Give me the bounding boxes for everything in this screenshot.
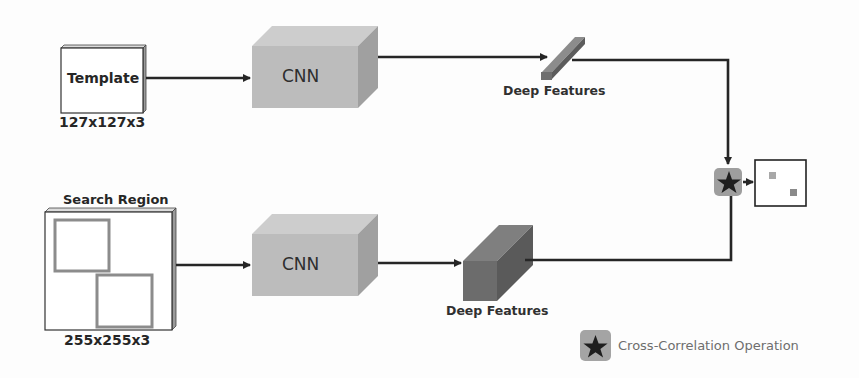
template-dims-label: 127x127x3	[59, 114, 145, 130]
search-dims-label: 255x255x3	[64, 332, 150, 348]
arrow-features-top-to-operator	[572, 60, 728, 164]
cnn-top-label: CNN	[282, 66, 319, 86]
template-input-label: Template	[67, 70, 139, 86]
response-peak-1	[769, 172, 776, 179]
pipeline-graphic	[0, 0, 859, 378]
cross-correlation-operator	[714, 168, 742, 196]
deep-features-bar-top	[541, 37, 585, 80]
deep-features-bottom-label: Deep Features	[446, 303, 549, 318]
cnn-bottom-label: CNN	[282, 254, 319, 274]
arrow-features-bottom-to-operator	[525, 184, 731, 260]
legend-operator-label: Cross-Correlation Operation	[618, 338, 799, 353]
deep-features-top-label: Deep Features	[503, 83, 606, 98]
response-map-output	[755, 160, 806, 206]
diagram-canvas: Template 127x127x3 CNN Deep Features Sea…	[0, 0, 859, 378]
candidate-box-1	[55, 220, 109, 271]
search-region-title: Search Region	[63, 192, 169, 207]
deep-features-cube-bottom	[463, 225, 533, 301]
response-peak-2	[790, 189, 797, 196]
search-region-input-box	[45, 208, 176, 330]
candidate-box-2	[97, 275, 152, 327]
legend	[580, 330, 611, 361]
